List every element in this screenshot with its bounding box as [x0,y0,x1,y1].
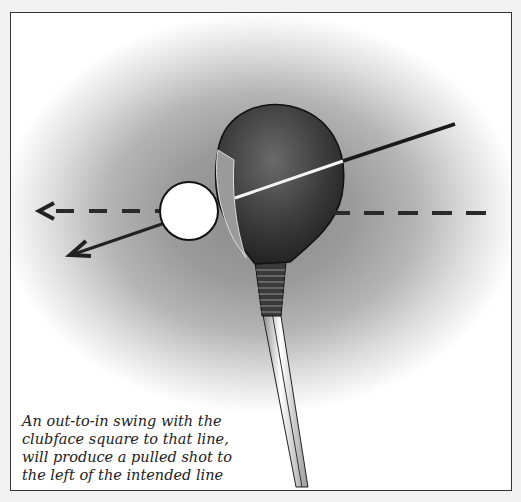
caption-line: An out-to-in swing with the [22,412,262,430]
club-hosel [255,262,286,316]
swing-path-line-dark [343,124,455,161]
caption: An out-to-in swing with the clubface squ… [22,412,262,484]
caption-line: the left of the intended line [22,466,262,484]
club-shaft [262,310,308,487]
caption-line: clubface square to that line, [22,430,262,448]
golf-ball [160,182,218,240]
caption-line: will produce a pulled shot to [22,448,262,466]
pull-shot-line [74,224,162,254]
target-arrow-head [39,203,54,219]
